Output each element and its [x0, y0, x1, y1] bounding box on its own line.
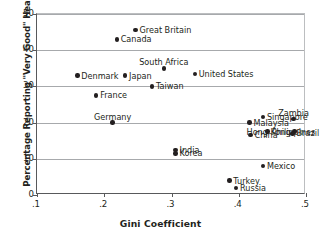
x-tick-label: .5 [293, 199, 317, 209]
data-point-label: South Africa [139, 58, 188, 66]
data-point [150, 84, 154, 88]
y-tick-label: 40 [12, 44, 34, 54]
x-tick-mark [172, 193, 173, 197]
data-point-label: Germany [94, 113, 131, 121]
data-point-label: Denmark [81, 71, 118, 79]
x-tick-mark [104, 193, 105, 197]
y-tick-label: 30 [12, 80, 34, 90]
x-tick-label: .3 [159, 199, 183, 209]
data-point [133, 28, 137, 32]
data-point [193, 72, 197, 76]
data-point [123, 73, 127, 77]
data-point-label: Canada [121, 35, 152, 43]
y-tick-mark [33, 86, 37, 87]
data-point-label: Brazil [297, 129, 320, 137]
plot-area: Great BritainCanadaSouth AfricaUnited St… [36, 13, 305, 194]
y-tick-mark [33, 50, 37, 51]
x-axis-title: Gini Coefficient [0, 218, 321, 229]
y-tick-label: 0 [12, 189, 34, 199]
data-point-label: Russia [240, 184, 266, 192]
x-tick-mark [37, 193, 38, 197]
data-point [173, 151, 177, 155]
data-point [227, 178, 231, 182]
data-point-label: China [255, 131, 278, 139]
y-tick-label: 50 [12, 8, 34, 18]
scatter-chart: Percentage Reporting "Very Good" Health … [0, 0, 321, 237]
x-tick-label: .1 [24, 199, 48, 209]
data-point-label: Zambia [278, 109, 309, 117]
gridline-y [37, 159, 304, 160]
x-tick-label: .2 [91, 199, 115, 209]
x-tick-label: .4 [226, 199, 250, 209]
data-point-label: Great Britain [140, 26, 192, 34]
data-point-label: Japan [129, 71, 152, 79]
y-tick-label: 10 [12, 153, 34, 163]
data-point [248, 133, 252, 137]
data-point-label: Malaysia [254, 119, 289, 127]
gridline-y [37, 50, 304, 51]
y-tick-mark [33, 123, 37, 124]
data-point-label: Taiwan [156, 82, 184, 90]
y-tick-label: 20 [12, 117, 34, 127]
x-tick-mark [306, 193, 307, 197]
x-tick-mark [239, 193, 240, 197]
data-point [261, 164, 265, 168]
data-point-label: Mexico [267, 162, 295, 170]
data-point-label: France [100, 91, 127, 99]
data-point [290, 131, 294, 135]
data-point [75, 73, 79, 77]
y-tick-mark [33, 14, 37, 15]
data-point [234, 186, 238, 190]
data-point [94, 93, 98, 97]
data-point-label: Korea [180, 149, 203, 157]
data-point [247, 120, 251, 124]
data-point-label: United States [199, 70, 254, 78]
gridline-y [37, 14, 304, 15]
y-tick-mark [33, 159, 37, 160]
data-point [115, 37, 119, 41]
